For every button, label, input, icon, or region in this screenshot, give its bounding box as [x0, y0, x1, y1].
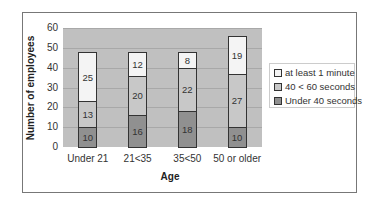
legend-label: 40 < 60 seconds [285, 81, 355, 92]
y-tick-label: 60 [36, 22, 58, 33]
bar-stack: 101325 [78, 28, 97, 147]
y-axis-label: Number of employees [25, 36, 36, 140]
y-tick-label: 40 [36, 62, 58, 73]
x-axis-label: Age [150, 171, 190, 182]
bar-segment: 20 [128, 76, 147, 117]
bar-segment: 19 [228, 36, 247, 75]
bar-segment: 13 [78, 101, 97, 128]
bar-segment: 16 [128, 115, 147, 148]
legend: at least 1 minute40 < 60 secondsUnder 40… [269, 63, 355, 108]
y-tick-label: 50 [36, 42, 58, 53]
legend-label: Under 40 seconds [285, 95, 362, 106]
x-tick-label: 50 or older [207, 153, 267, 164]
y-tick-label: 30 [36, 82, 58, 93]
legend-swatch-icon [274, 97, 282, 105]
legend-item: Under 40 seconds [274, 95, 362, 106]
bar-stack: 18228 [178, 28, 197, 147]
bar-stack: 102719 [228, 28, 247, 147]
bar-stack: 162012 [128, 28, 147, 147]
legend-item: at least 1 minute [274, 67, 355, 78]
y-tick-label: 20 [36, 101, 58, 112]
bar-segment: 27 [228, 74, 247, 129]
legend-swatch-icon [274, 69, 282, 77]
bar-segment: 22 [178, 68, 197, 113]
bar-segment: 10 [228, 127, 247, 148]
bar-segment: 8 [178, 52, 197, 69]
legend-label: at least 1 minute [285, 67, 355, 78]
plot-area: 10132516201218228102719 [63, 28, 262, 147]
bar-segment: 18 [178, 111, 197, 148]
legend-item: 40 < 60 seconds [274, 81, 355, 92]
legend-swatch-icon [274, 83, 282, 91]
y-tick-label: 0 [36, 141, 58, 152]
y-tick-label: 10 [36, 121, 58, 132]
bar-segment: 25 [78, 52, 97, 103]
bar-segment: 12 [128, 52, 147, 77]
bar-segment: 10 [78, 127, 97, 148]
